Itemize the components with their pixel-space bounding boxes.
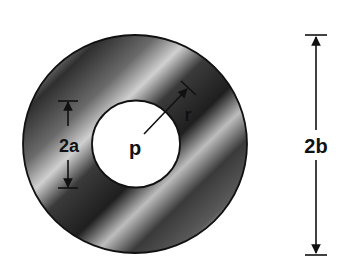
center-point-label: p — [129, 137, 141, 159]
radius-label: r — [184, 105, 191, 125]
outer-diameter-label: 2b — [304, 135, 327, 157]
diagram-canvas: 2a r p 2b — [0, 0, 348, 265]
inner-diameter-label: 2a — [59, 136, 80, 156]
